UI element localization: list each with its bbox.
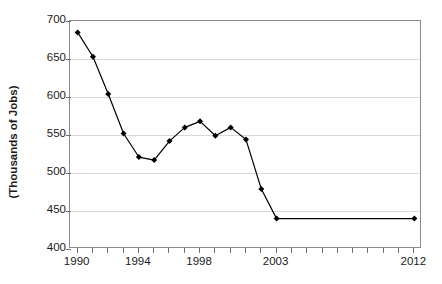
- x-axis-tick-mark: [77, 248, 78, 253]
- x-axis-tick-label: 1998: [186, 256, 212, 268]
- x-axis-tick-label-group: 19901994199820032012: [0, 256, 442, 276]
- data-series-jobs: [70, 21, 422, 249]
- x-axis-tick-label: 2012: [401, 256, 427, 268]
- x-axis-tick-mark: [383, 248, 384, 253]
- x-axis-tick-mark: [245, 248, 246, 253]
- x-axis-tick-mark: [199, 248, 200, 253]
- x-axis-tick-label: 1990: [64, 256, 90, 268]
- x-axis-tick-mark: [214, 248, 215, 253]
- y-axis-tick-mark: [66, 97, 71, 98]
- y-axis-tick-label: 600: [26, 90, 66, 102]
- y-axis-tick-label: 400: [26, 242, 66, 254]
- series-line: [78, 32, 415, 218]
- x-axis-tick-mark: [168, 248, 169, 253]
- y-axis-tick-mark: [66, 21, 71, 22]
- x-axis-tick-mark: [337, 248, 338, 253]
- x-axis-tick-mark: [230, 248, 231, 253]
- x-axis-tick-mark: [306, 248, 307, 253]
- x-axis-tick-mark: [322, 248, 323, 253]
- x-axis-tick-mark: [153, 248, 154, 253]
- y-axis-tick-label-group: 400450500550600650700: [26, 0, 66, 284]
- y-axis-tick-mark: [66, 173, 71, 174]
- data-point-marker: [258, 186, 264, 192]
- y-axis-tick-mark: [66, 59, 71, 60]
- x-axis-tick-mark: [413, 248, 414, 253]
- data-point-marker: [75, 29, 81, 35]
- x-axis-tick-mark: [291, 248, 292, 253]
- data-point-marker: [411, 216, 417, 222]
- y-axis-tick-label: 500: [26, 166, 66, 178]
- x-axis-tick-mark: [184, 248, 185, 253]
- x-axis-tick-mark-group: [69, 248, 422, 254]
- y-axis-tick-mark: [66, 211, 71, 212]
- x-axis-tick-mark: [398, 248, 399, 253]
- chart-container: (Thousands of Jobs) 40045050055060065070…: [0, 0, 442, 284]
- x-axis-tick-mark: [107, 248, 108, 253]
- x-axis-tick-label: 1994: [125, 256, 151, 268]
- data-point-marker: [136, 154, 142, 160]
- series-marker-group: [75, 29, 418, 221]
- y-axis-title: (Thousands of Jobs): [0, 0, 26, 284]
- y-axis-tick-label: 450: [26, 204, 66, 216]
- x-axis-tick-mark: [276, 248, 277, 253]
- y-axis-tick-label: 650: [26, 52, 66, 64]
- x-axis-tick-mark: [92, 248, 93, 253]
- x-axis-tick-mark: [138, 248, 139, 253]
- plot-area: [69, 20, 421, 248]
- y-axis-tick-label: 550: [26, 128, 66, 140]
- x-axis-tick-mark: [123, 248, 124, 253]
- x-axis-tick-label: 2003: [263, 256, 289, 268]
- y-axis-tick-mark: [66, 135, 71, 136]
- x-axis-tick-mark: [367, 248, 368, 253]
- x-axis-tick-mark: [260, 248, 261, 253]
- data-point-marker: [274, 216, 280, 222]
- data-point-marker: [121, 130, 127, 136]
- y-axis-tick-label: 700: [26, 14, 66, 26]
- data-point-marker: [90, 54, 96, 60]
- data-point-marker: [105, 91, 111, 97]
- x-axis-tick-mark: [352, 248, 353, 253]
